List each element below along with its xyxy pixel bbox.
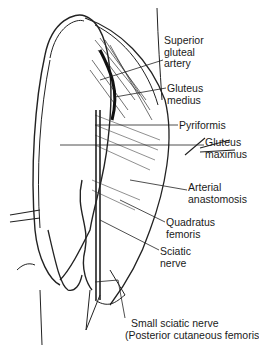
anatomy-figure: Superior gluteal artery Gluteus medius P… — [0, 0, 259, 352]
label-superior-gluteal-artery: Superior gluteal artery — [164, 35, 204, 70]
label-pyriformis: Pyriformis — [179, 120, 226, 132]
label-small-sciatic-nerve: Small sciatic nerve (Posterior cutaneous… — [125, 318, 259, 341]
label-gluteus-medius: Gluteus medius — [167, 83, 203, 106]
label-quadratus-femoris: Quadratus femoris — [166, 217, 215, 240]
gluteal-region-illustration — [0, 0, 259, 352]
label-arterial-anastomosis: Arterial anastomosis — [188, 182, 247, 205]
label-sciatic-nerve: Sciatic nerve — [160, 246, 191, 269]
label-gluteus-maximus: Gluteus maximus — [205, 137, 247, 160]
